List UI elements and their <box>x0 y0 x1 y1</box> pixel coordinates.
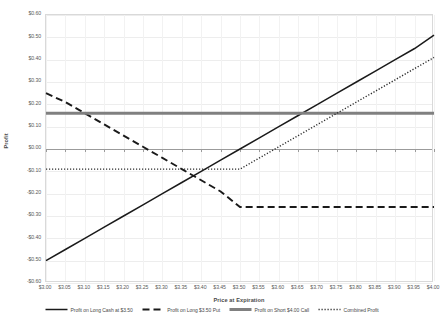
legend-item-label: Profit on Long $3.50 Put <box>167 307 220 313</box>
y-axis-tick-label: -$0.30 <box>0 212 41 217</box>
y-axis-tick-label: -$0.40 <box>0 235 41 240</box>
y-axis-tick-label: -$0.20 <box>0 190 41 195</box>
y-axis-tick-label: -$0.10 <box>0 168 41 173</box>
legend-swatch-icon <box>229 306 252 313</box>
x-axis-title: Price at Expiration <box>45 297 433 303</box>
legend-item-label: Profit on Long Cash at $3.50 <box>71 307 133 313</box>
y-axis-tick-label: $0.40 <box>0 56 41 61</box>
legend-swatch-icon <box>142 306 165 313</box>
legend-swatch-icon <box>318 306 341 313</box>
y-axis-title: Profit <box>3 121 9 161</box>
legend-item[interactable]: Profit on Long $3.50 Put <box>142 306 220 313</box>
y-axis-tick-label: -$0.50 <box>0 257 41 262</box>
x-axis-tick-label: $4.00 <box>416 284 442 290</box>
x-axis-tick-mark <box>434 149 435 152</box>
chart-legend: Profit on Long Cash at $3.50Profit on Lo… <box>45 306 435 322</box>
legend-item[interactable]: Profit on Short $4.00 Call <box>229 306 309 313</box>
series-overlay <box>46 15 434 283</box>
gridline-vertical <box>434 15 435 281</box>
legend-swatch-icon <box>45 306 68 313</box>
plot-area <box>45 14 433 282</box>
y-axis-tick-label: $0.60 <box>0 11 41 16</box>
y-axis-tick-label: $0.20 <box>0 101 41 106</box>
legend-item[interactable]: Combined Profit <box>318 306 379 313</box>
legend-item[interactable]: Profit on Long Cash at $3.50 <box>45 306 133 313</box>
x-axis-tick-labels: $3.00$3.05$3.10$3.15$3.20$3.25$3.30$3.35… <box>45 284 433 294</box>
series-line-1 <box>46 93 434 207</box>
series-line-0 <box>46 35 434 261</box>
legend-item-label: Combined Profit <box>344 307 379 313</box>
legend-item-label: Profit on Short $4.00 Call <box>255 307 310 313</box>
payoff-chart: $0.60$0.50$0.40$0.30$0.20$0.10$0.00-$0.1… <box>0 0 442 329</box>
y-axis-tick-label: $0.50 <box>0 34 41 39</box>
y-axis-tick-label: $0.30 <box>0 78 41 83</box>
